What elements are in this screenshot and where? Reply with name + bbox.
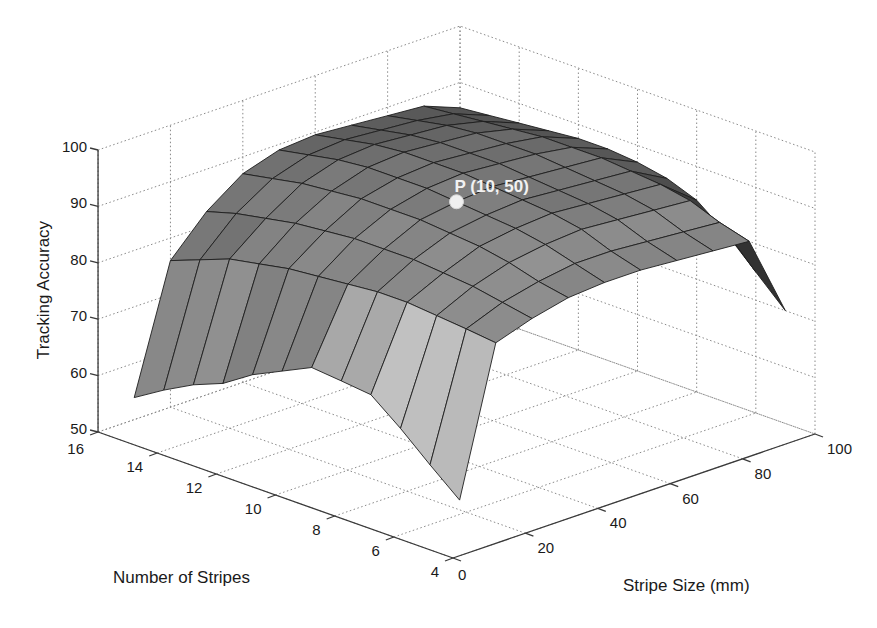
y-tick-label: 16 — [67, 440, 84, 457]
z-tick — [90, 148, 98, 150]
x-tick — [743, 459, 751, 462]
x-tick — [598, 508, 606, 511]
y-tick-label: 14 — [127, 458, 144, 475]
z-tick-label: 100 — [62, 138, 87, 155]
annotation-marker — [450, 195, 464, 209]
z-tick-label: 50 — [70, 420, 87, 437]
z-tick — [90, 261, 98, 263]
x-tick — [815, 434, 823, 437]
z-tick-label: 60 — [70, 364, 87, 381]
x-tick-label: 40 — [610, 514, 627, 531]
y-tick — [327, 516, 335, 519]
x-tick-label: 60 — [682, 490, 699, 507]
z-axis-label: Tracking Accuracy — [34, 220, 53, 359]
z-tick — [90, 317, 98, 319]
x-tick — [525, 533, 533, 536]
x-tick-label: 100 — [827, 440, 852, 457]
annotation-label: P (10, 50) — [455, 177, 529, 196]
x-tick-label: 20 — [537, 539, 554, 556]
y-tick — [208, 474, 216, 477]
x-axis-label: Stripe Size (mm) — [623, 576, 750, 595]
y-tick-label: 10 — [245, 500, 262, 517]
y-axis-label: Number of Stripes — [113, 568, 250, 587]
x-tick — [670, 484, 678, 487]
z-tick-label: 80 — [70, 251, 87, 268]
z-tick-label: 70 — [70, 307, 87, 324]
x-tick-label: 80 — [755, 465, 772, 482]
y-tick-label: 4 — [431, 563, 439, 580]
x-tick — [453, 558, 461, 561]
y-tick — [90, 432, 98, 435]
y-tick-label: 12 — [186, 479, 203, 496]
size-axis-line — [453, 434, 815, 558]
z-tick — [90, 430, 98, 432]
y-tick — [386, 537, 394, 540]
z-tick — [90, 204, 98, 206]
z-tick-label: 90 — [70, 194, 87, 211]
x-tick-label: 0 — [458, 566, 466, 583]
z-tick — [90, 374, 98, 376]
y-tick — [268, 495, 276, 498]
y-tick-label: 8 — [312, 521, 320, 538]
surface-chart: P (10, 50) 50607080901004681012141602040… — [0, 0, 877, 628]
y-tick — [445, 558, 453, 561]
y-tick-label: 6 — [371, 542, 379, 559]
surface-mesh — [134, 106, 785, 500]
y-tick — [149, 453, 157, 456]
